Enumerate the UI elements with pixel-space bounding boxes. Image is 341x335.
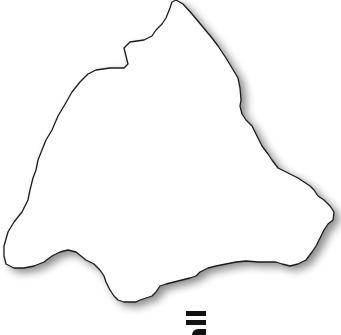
logo-icon <box>186 311 208 335</box>
logo-bar-bottom <box>192 329 206 335</box>
region-map-outline <box>0 0 341 335</box>
region-shape[interactable] <box>4 0 334 302</box>
logo-bar-middle <box>186 320 206 325</box>
logo-bar-top <box>186 311 206 316</box>
